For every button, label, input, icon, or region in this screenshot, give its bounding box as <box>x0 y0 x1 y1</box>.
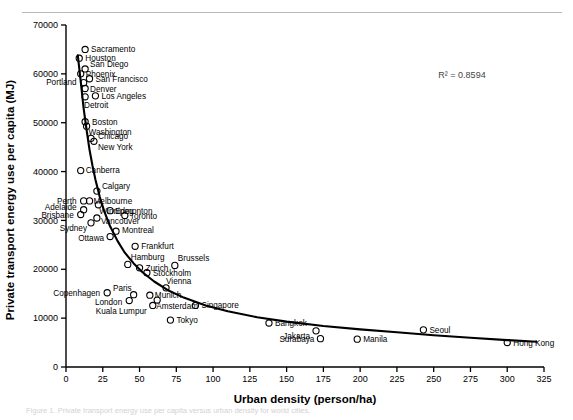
svg-text:40000: 40000 <box>33 167 58 177</box>
svg-text:70000: 70000 <box>33 20 58 30</box>
point-label-amsterdam: Amsterdam <box>156 302 198 311</box>
point-label-sacramento: Sacramento <box>91 45 136 54</box>
point-marker-denver <box>82 85 88 91</box>
svg-text:175: 175 <box>316 374 331 384</box>
point-label-kuala-lumpur: Kuala Lumpur <box>96 307 147 316</box>
point-label-tokyo: Tokyo <box>176 316 198 325</box>
point-label-seoul: Seoul <box>429 326 450 335</box>
point-marker-london <box>126 297 132 303</box>
data-point: Ottawa <box>78 233 113 242</box>
r-squared-annotation: R² = 0.8594 <box>438 70 485 80</box>
point-marker-brisbane <box>78 211 84 217</box>
data-point: Sydney <box>60 220 94 233</box>
point-marker-bangkok <box>266 320 272 326</box>
chart-figure: 0255075100125150175200225250275300325010… <box>0 0 573 420</box>
data-point: Tokyo <box>167 316 198 325</box>
point-label-brussels: Brussels <box>178 254 209 263</box>
svg-text:125: 125 <box>242 374 257 384</box>
x-axis-title: Urban density (person/ha) <box>234 393 377 405</box>
svg-text:300: 300 <box>500 374 515 384</box>
svg-text:150: 150 <box>279 374 294 384</box>
point-label-vienna: Vienna <box>166 277 192 286</box>
point-label-detroit: Detroit <box>84 101 109 110</box>
scatter-plot: 0255075100125150175200225250275300325010… <box>0 0 573 420</box>
svg-text:50: 50 <box>135 374 145 384</box>
point-label-portland: Portland <box>46 78 77 87</box>
data-point: London <box>95 297 132 306</box>
data-point: Frankfurt <box>132 242 175 251</box>
point-marker-jakarta <box>313 328 319 334</box>
point-label-calgary: Calgary <box>102 182 131 191</box>
point-marker-tokyo <box>167 317 173 323</box>
svg-text:10000: 10000 <box>33 313 58 323</box>
data-point: Calgary <box>94 182 131 194</box>
point-label-vancouver: Vancouver <box>101 217 140 226</box>
point-marker-munich <box>147 292 153 298</box>
svg-text:0: 0 <box>53 362 58 372</box>
data-point: Sacramento <box>82 45 136 54</box>
point-marker-frankfurt <box>132 243 138 249</box>
point-label-canberra: Canberra <box>86 166 121 175</box>
svg-text:200: 200 <box>353 374 368 384</box>
point-label-munich: Munich <box>155 291 182 300</box>
point-marker-seoul <box>420 327 426 333</box>
point-marker-vancouver <box>94 215 100 221</box>
point-marker-sacramento <box>82 46 88 52</box>
point-label-frankfurt: Frankfurt <box>141 242 174 251</box>
point-label-copenhagen: Copenhagen <box>53 289 100 298</box>
point-marker-los-angeles <box>92 93 98 99</box>
svg-text:250: 250 <box>426 374 441 384</box>
svg-text:0: 0 <box>63 374 68 384</box>
point-label-bangkok: Bangkok <box>275 319 308 328</box>
svg-text:75: 75 <box>171 374 181 384</box>
point-label-ottawa: Ottawa <box>78 234 104 243</box>
point-marker-kuala-lumpur <box>150 302 156 308</box>
point-label-new-york: New York <box>98 143 133 152</box>
data-point: Copenhagen <box>53 289 110 298</box>
point-label-surabaya: Surabaya <box>279 335 314 344</box>
figure-caption: Figure 1. Private transport energy use p… <box>26 406 546 416</box>
data-point: Canberra <box>78 166 121 175</box>
point-label-san-diego: San Diego <box>90 60 129 69</box>
data-points: SacramentoHoustonSan DiegoPhoenixSan Fra… <box>41 45 554 347</box>
svg-text:50000: 50000 <box>33 118 58 128</box>
svg-text:225: 225 <box>389 374 404 384</box>
data-point: Boston <box>82 118 118 127</box>
point-marker-perth <box>81 198 87 204</box>
point-marker-manila <box>354 336 360 342</box>
data-point: Brisbane <box>41 211 83 220</box>
data-point: Montreal <box>113 226 154 235</box>
point-marker-melbourne <box>86 198 92 204</box>
data-point: Brussels <box>172 254 210 268</box>
data-point: Vancouver <box>94 215 140 226</box>
point-label-manila: Manila <box>363 335 388 344</box>
point-marker-surabaya <box>317 336 323 342</box>
point-label-hong-kong: Hong Kong <box>513 339 554 348</box>
point-label-san-francisco: San Francisco <box>96 75 149 84</box>
point-label-sydney: Sydney <box>60 224 88 233</box>
svg-text:20000: 20000 <box>33 264 58 274</box>
point-label-paris: Paris <box>113 284 132 293</box>
point-label-singapore: Singapore <box>201 301 239 310</box>
point-marker-sydney <box>88 220 94 226</box>
data-point: Manila <box>354 335 388 344</box>
data-point: Melbourne <box>86 197 132 206</box>
point-label-boston: Boston <box>92 118 118 127</box>
point-label-montreal: Montreal <box>122 226 154 235</box>
point-label-chicago: Chicago <box>98 132 128 141</box>
point-label-los-angeles: Los Angeles <box>101 92 146 101</box>
y-axis-title: Private transport energy use per capita … <box>4 80 16 320</box>
svg-text:275: 275 <box>463 374 478 384</box>
point-marker-canberra <box>78 167 84 173</box>
svg-text:325: 325 <box>536 374 551 384</box>
data-point: Surabaya <box>279 335 323 344</box>
point-label-london: London <box>95 298 123 307</box>
point-label-hamburg: Hamburg <box>131 253 165 262</box>
data-point: Munich <box>147 291 182 300</box>
point-marker-ottawa <box>107 233 113 239</box>
point-marker-montreal <box>113 228 119 234</box>
trendline <box>78 55 537 342</box>
svg-text:100: 100 <box>206 374 221 384</box>
data-point: San Francisco <box>86 75 148 84</box>
svg-text:25: 25 <box>98 374 108 384</box>
